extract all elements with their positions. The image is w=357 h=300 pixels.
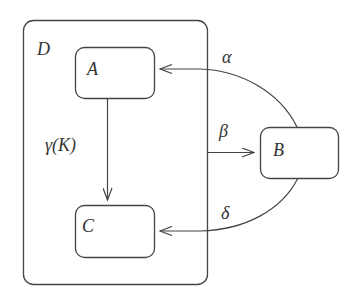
transition-beta: β: [208, 121, 255, 153]
state-a: A: [76, 48, 155, 99]
state-a-label: A: [86, 59, 99, 79]
transition-gamma: γ(K): [45, 99, 108, 200]
transition-alpha: α: [160, 47, 297, 127]
transition-gamma-label: γ(K): [45, 135, 76, 156]
state-b-label: B: [273, 140, 284, 160]
state-c: C: [76, 206, 155, 258]
transition-beta-label: β: [218, 121, 228, 141]
state-b: B: [261, 128, 339, 179]
state-d-label: D: [36, 39, 50, 59]
transition-delta-label: δ: [221, 203, 230, 223]
transition-delta: δ: [160, 178, 298, 231]
transition-alpha-label: α: [222, 47, 232, 67]
statechart-diagram: D A C B γ(K) β α δ: [0, 0, 357, 300]
state-c-label: C: [82, 216, 95, 236]
